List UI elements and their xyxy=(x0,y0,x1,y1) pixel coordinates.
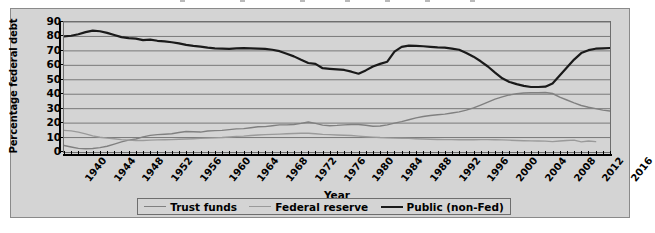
x-tick-label: 1984 xyxy=(399,155,425,184)
chart-figure: Percentage federal debt 9080706050403020… xyxy=(10,8,630,218)
cropped-top-mark xyxy=(240,0,245,2)
x-tick-label: 1996 xyxy=(485,155,511,184)
y-tick-label: 60 xyxy=(39,59,61,69)
y-tick-label: 0 xyxy=(39,146,61,156)
x-tick-label: 1992 xyxy=(456,155,482,184)
x-tick-label: 1976 xyxy=(341,155,367,184)
legend-swatch-line xyxy=(381,206,403,208)
cropped-top-mark xyxy=(180,0,185,2)
cropped-top-mark xyxy=(345,0,350,2)
legend-label: Federal reserve xyxy=(275,201,368,213)
legend-item-0[interactable]: Trust funds xyxy=(144,201,237,213)
y-tick-label: 30 xyxy=(39,103,61,113)
y-tick-label: 80 xyxy=(39,30,61,40)
x-tick-label: 1964 xyxy=(255,155,281,184)
series-line-2 xyxy=(64,31,610,87)
y-axis-line xyxy=(59,21,61,153)
legend-item-1[interactable]: Federal reserve xyxy=(249,201,368,213)
legend-swatch-line xyxy=(249,206,271,207)
legend-label: Public (non-Fed) xyxy=(407,201,504,213)
x-tick-label: 2000 xyxy=(514,155,540,184)
cropped-top-mark xyxy=(300,0,305,2)
legend-item-2[interactable]: Public (non-Fed) xyxy=(381,201,504,213)
cropped-top-mark xyxy=(425,0,430,2)
chart-legend: Trust fundsFederal reservePublic (non-Fe… xyxy=(137,198,511,215)
x-axis-line xyxy=(63,154,612,156)
x-tick-label: 1988 xyxy=(428,155,454,184)
plot-area xyxy=(63,21,611,153)
x-tick-label: 2016 xyxy=(629,155,655,184)
y-tick-label: 90 xyxy=(39,16,61,26)
y-tick-label: 20 xyxy=(39,117,61,127)
y-tick-label: 40 xyxy=(39,88,61,98)
x-tick-label: 1960 xyxy=(226,155,252,184)
legend-label: Trust funds xyxy=(170,201,237,213)
x-tick-label: 2012 xyxy=(600,155,626,184)
x-tick-label: 1980 xyxy=(370,155,396,184)
x-tick-label: 1944 xyxy=(111,155,137,184)
x-tick-label: 1940 xyxy=(83,155,109,184)
y-axis-label: Percentage federal debt xyxy=(7,15,21,157)
x-tick-label: 2004 xyxy=(542,155,568,184)
chart-svg xyxy=(64,22,610,152)
y-tick-label: 10 xyxy=(39,132,61,142)
x-tick-label: 1972 xyxy=(313,155,339,184)
x-tick-label: 2008 xyxy=(571,155,597,184)
x-tick-label: 1956 xyxy=(198,155,224,184)
y-axis-tick-labels: 9080706050403020100 xyxy=(31,21,61,153)
x-tick-label: 1968 xyxy=(284,155,310,184)
top-cropped-strip xyxy=(0,0,640,6)
legend-swatch-line xyxy=(144,206,166,207)
cropped-top-mark xyxy=(385,0,390,2)
y-tick-label: 70 xyxy=(39,45,61,55)
x-tick-label: 1952 xyxy=(169,155,195,184)
cropped-top-mark xyxy=(470,0,475,2)
x-tick-label: 1948 xyxy=(140,155,166,184)
x-axis-tick-labels: 1940194419481952195619601964196819721976… xyxy=(63,155,615,191)
y-tick-label: 50 xyxy=(39,74,61,84)
